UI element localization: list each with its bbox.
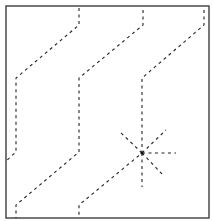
star-ray-2 [142, 153, 164, 176]
fold-path-middle [16, 10, 143, 218]
star-ray-4 [119, 131, 142, 153]
fold-path-left [6, 8, 79, 161]
star-ray-3 [142, 130, 166, 153]
fold-paths [6, 8, 204, 218]
crease-pattern-diagram [0, 0, 213, 221]
star-center-dot [140, 151, 143, 154]
diagram-frame [6, 6, 209, 218]
star-vertex [119, 130, 176, 187]
